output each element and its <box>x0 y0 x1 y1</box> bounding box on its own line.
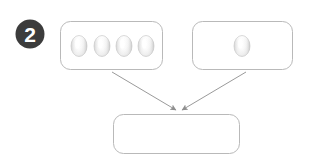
one-egg-group-box-eggs <box>234 36 250 57</box>
egg-highlight <box>120 39 125 49</box>
diagram-svg: 2 <box>0 0 313 164</box>
arrow-group <box>112 72 246 110</box>
egg-highlight <box>238 39 243 49</box>
egg-highlight <box>98 39 103 49</box>
egg-highlight <box>75 39 80 49</box>
one-egg-group-box[interactable] <box>193 22 293 70</box>
result-box[interactable] <box>114 115 240 154</box>
arrow-from-one-egg-to-result <box>182 72 246 110</box>
four-eggs-group-box[interactable] <box>61 22 163 70</box>
diagram-canvas: 2 <box>0 0 313 164</box>
step-badge-label: 2 <box>24 23 36 46</box>
step-badge: 2 <box>16 20 45 49</box>
egg-highlight <box>142 39 147 49</box>
result-box-outline <box>114 115 240 154</box>
arrow-from-four-eggs-to-result <box>112 72 176 110</box>
